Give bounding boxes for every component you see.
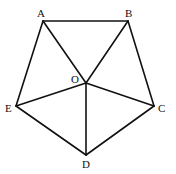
label-b: B <box>125 7 132 19</box>
pentagon-diagram: A B C D E O <box>0 0 176 174</box>
label-o: O <box>71 73 79 85</box>
vertex-labels: A B C D E O <box>5 7 165 170</box>
edge-cd <box>86 106 154 155</box>
edge-de <box>16 106 86 155</box>
edge-ob <box>86 21 128 83</box>
edge-oc <box>86 83 154 106</box>
edge-bc <box>128 21 154 106</box>
label-d: D <box>82 158 90 170</box>
edge-oa <box>43 21 86 83</box>
label-c: C <box>158 102 165 114</box>
label-a: A <box>37 7 45 19</box>
edge-oe <box>16 83 86 106</box>
edges <box>16 21 154 155</box>
label-e: E <box>5 102 12 114</box>
edge-ea <box>16 21 43 106</box>
